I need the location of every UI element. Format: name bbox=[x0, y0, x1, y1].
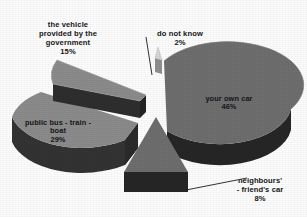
slice-percent-own-car: 46% bbox=[196, 103, 262, 112]
slice-percent-do-not-know: 2% bbox=[145, 39, 215, 48]
slice-label-own-car: your own car 46% bbox=[196, 86, 262, 121]
slice-label-line2: provided by the bbox=[39, 29, 97, 38]
slice-label-government-vehicle: the vehicle provided by the government 1… bbox=[16, 12, 120, 66]
slice-label-line1: your own car bbox=[205, 94, 252, 103]
slice-label-neighbours-car: neighbours' - friend's car 8% bbox=[218, 168, 302, 213]
slice-label-line1: neighbours' bbox=[238, 176, 282, 185]
slice-label-line1: public bus - train - bbox=[25, 118, 91, 127]
slice-label-public-transport: public bus - train - boat 29% bbox=[12, 110, 104, 154]
slice-label-do-not-know: do not know 2% bbox=[145, 21, 215, 57]
slice-label-line1: the vehicle bbox=[48, 20, 88, 29]
slice-percent-public-transport: 29% bbox=[12, 136, 104, 145]
slice-label-line3: government bbox=[46, 38, 90, 47]
slice-label-line2: - friend's car bbox=[237, 185, 284, 194]
slice-label-line1: do not know bbox=[157, 29, 203, 38]
slice-label-line2: boat bbox=[50, 126, 66, 135]
slice-percent-neighbours-car: 8% bbox=[218, 195, 302, 204]
pie-chart-figure: the vehicle provided by the government 1… bbox=[0, 0, 307, 217]
slice-percent-government-vehicle: 15% bbox=[16, 48, 120, 57]
